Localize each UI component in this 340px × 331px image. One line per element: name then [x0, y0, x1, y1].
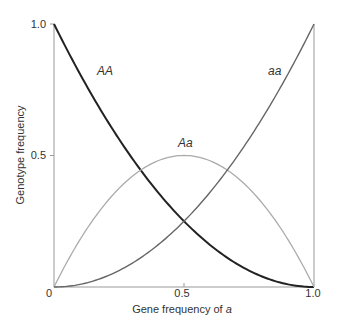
- y-axis-title: Genotype frequency: [14, 105, 26, 205]
- label-aa: aa: [268, 64, 282, 78]
- y-tick-label: 0.5: [31, 149, 46, 161]
- x-tick-label: 1.0: [305, 287, 320, 299]
- labels: 1.0 0.5 0 0.5 1.0 Gene frequency of a Ge…: [14, 18, 321, 315]
- y-tick-label: 1.0: [31, 18, 46, 30]
- x-axis-title-text: Gene frequency of: [132, 303, 226, 315]
- label-AA: AA: [96, 64, 113, 78]
- x-tick-label: 0: [46, 287, 52, 299]
- label-Aa: Aa: [177, 136, 193, 150]
- x-axis-title-italic: a: [226, 303, 232, 315]
- x-axis-title: Gene frequency of a: [132, 303, 232, 315]
- x-tick-label: 0.5: [174, 287, 189, 299]
- genotype-frequency-chart: 1.0 0.5 0 0.5 1.0 Gene frequency of a Ge…: [0, 0, 340, 331]
